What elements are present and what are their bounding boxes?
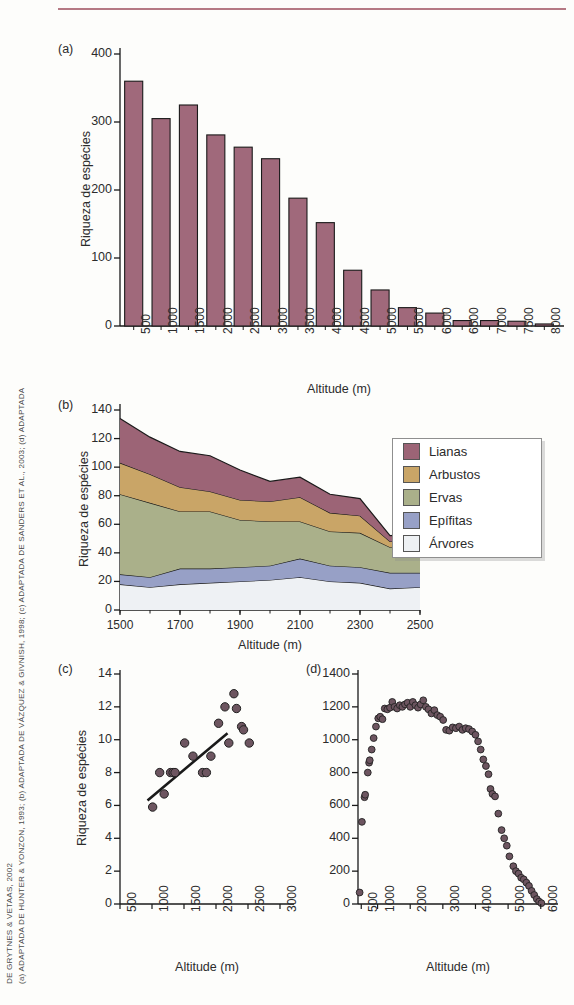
data-point [160,790,168,798]
panel-d-ytick: 1200 [300,699,350,713]
bar [152,119,170,326]
legend-item-árvores[interactable]: Árvores [403,532,541,554]
panel-a-xtick: 4000 [330,307,344,334]
panel-a-xtick: 6500 [467,307,481,334]
legend-swatch-icon [403,489,420,506]
data-point [232,704,240,712]
panel-a-xtick: 2500 [248,307,262,334]
panel-b-xtick: 2100 [276,618,324,632]
panel-b-xtick: 1900 [216,618,264,632]
legend-item-ervas[interactable]: Ervas [403,486,541,508]
data-point [364,769,371,776]
panel-d-xlabel: Altitude (m) [358,960,558,974]
legend-item-epífitas[interactable]: Epífitas [403,509,541,531]
panel-b-ytick: 40 [58,545,112,559]
panel-a-xtick: 4500 [358,307,372,334]
data-point [366,757,373,764]
panel-a-xtick: 7000 [495,307,509,334]
panel-a-xtick: 8000 [549,307,563,334]
panel-c-ytick: 0 [58,896,112,910]
panel-c-ytick: 6 [58,797,112,811]
source-credits: (a) ADAPTADA DE HUNTER & YONZON, 1993; (… [0,30,42,990]
legend-item-arbustos[interactable]: Arbustos [403,463,541,485]
panel-a-ytick: 0 [58,318,112,332]
panel-a-xtick: 1500 [193,307,207,334]
legend-item-lianas[interactable]: Lianas [403,440,541,462]
data-point [373,723,380,730]
data-point [362,791,369,798]
panel-d-xtick: 2000 [415,885,429,912]
panel-d-xtick: 6000 [546,885,560,912]
header-rule [58,8,566,10]
data-point [214,719,222,727]
data-point [501,835,508,842]
panel-d-ytick: 600 [300,797,350,811]
panel-a-xtick: 5000 [385,307,399,334]
bar [207,135,225,326]
data-point [483,763,490,770]
panel-b-xtick: 2500 [396,618,444,632]
data-point [207,752,215,760]
legend-label: Árvores [429,536,474,551]
data-point [538,900,545,907]
credit-line-2: DE GRYTNES & VETAAS, 2002 [5,863,14,984]
data-point [202,768,210,776]
data-point [492,793,499,800]
panel-a-xlabel: Altitude (m) [120,382,558,396]
legend-label: Arbustos [429,467,480,482]
panel-a-ytick: 100 [58,250,112,264]
data-point [370,735,377,742]
panel-c-ytick: 4 [58,830,112,844]
figure-page: (a) ADAPTADA DE HUNTER & YONZON, 1993; (… [0,0,574,1005]
panel-b-xtick: 1500 [96,618,144,632]
data-point [148,803,156,811]
data-point [477,746,484,753]
panel-b-ytick: 80 [58,488,112,502]
panel-b-xtick: 1700 [156,618,204,632]
data-point [245,739,253,747]
panel-c-xtick: 1500 [189,885,203,912]
panel-b-ytick: 0 [58,602,112,616]
data-point [475,738,482,745]
panel-b-xtick: 2300 [336,618,384,632]
panel-a-xtick: 500 [139,314,153,334]
panel-b-ytick: 100 [58,459,112,473]
panel-d-xtick: 3000 [448,885,462,912]
legend-label: Epífitas [429,513,472,528]
legend-swatch-icon [403,443,420,460]
panel-c-xtick: 500 [125,892,139,912]
data-point [440,717,447,724]
data-point [503,842,510,849]
legend-swatch-icon [403,466,420,483]
panel-c-xtick: 2500 [253,885,267,912]
panel-a-xtick: 3000 [276,307,290,334]
panel-d-xtick: 5000 [513,885,527,912]
panel-a-ytick: 200 [58,182,112,196]
data-point [379,716,386,723]
bar [179,105,197,326]
legend-label: Ervas [429,490,462,505]
data-point [506,853,513,860]
data-point [485,771,492,778]
chart-panel-a: (a) Riqueza de espécies Altitude (m) 010… [58,40,568,370]
panel-c-xtick: 1000 [157,885,171,912]
data-point [230,690,238,698]
data-point [368,746,375,753]
data-point [171,768,179,776]
panel-a-xtick: 2000 [221,307,235,334]
chart-panel-d: (d) Altitude (m) 02004006008001000120014… [300,660,568,995]
panel-c-xlabel: Altitude (m) [120,960,294,974]
panel-d-xtick: 4000 [480,885,494,912]
data-point [180,739,188,747]
panel-d-xtick: 500 [366,892,380,912]
panel-d-ytick: 400 [300,830,350,844]
credit-line-1: (a) ADAPTADA DE HUNTER & YONZON, 1993; (… [17,388,26,984]
panel-c-xtick: 3000 [285,885,299,912]
panel-a-xtick: 6000 [440,307,454,334]
panel-d-ytick: 800 [300,765,350,779]
panel-d-xtick: 1000 [383,885,397,912]
panel-d-ytick: 0 [300,896,350,910]
bar [262,159,280,326]
data-point [221,703,229,711]
data-point [495,810,502,817]
